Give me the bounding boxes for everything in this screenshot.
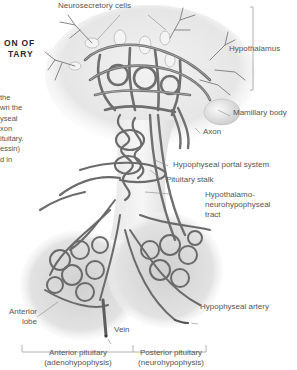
- title-line-1: ON OF: [4, 38, 35, 49]
- section-title: ON OF TARY: [0, 38, 35, 60]
- label-vein: Vein: [114, 325, 130, 335]
- title-line-2: TARY: [8, 49, 35, 60]
- body-line: yseal: [0, 114, 24, 124]
- label-hypothalamo-tract: Hypothalamo- neurohypophyseal tract: [205, 190, 270, 220]
- label-axon: Axon: [203, 127, 221, 137]
- body-text: the wri the yseal xon ituitary. essin) d…: [0, 93, 24, 165]
- label-mamillary-body: Mamillary body: [233, 108, 287, 118]
- body-line: wri the: [0, 103, 24, 113]
- body-line: xon: [0, 124, 24, 134]
- body-line: d in: [0, 155, 24, 165]
- label-anterior-lobe: Anterior lobe: [3, 307, 37, 327]
- label-posterior-pituitary: Posterior pituitary (neurohypophysis): [134, 348, 208, 368]
- label-hypophyseal-portal-system: Hypophyseal portal system: [173, 160, 269, 170]
- label-hypothalamus: Hypothalamus: [229, 44, 280, 54]
- label-pituitary-stalk: Pituitary stalk: [166, 175, 214, 185]
- body-line: the: [0, 93, 24, 103]
- label-anterior-pituitary: Anterior pituitary (adenohypophysis): [40, 348, 116, 368]
- body-line: ituitary.: [0, 134, 24, 144]
- pituitary-illustration: [0, 0, 297, 370]
- label-hypophyseal-artery: Hypophyseal artery: [200, 302, 269, 312]
- label-neurosecretory-cells: Neurosecretory cells: [58, 1, 131, 11]
- body-line: essin): [0, 144, 24, 154]
